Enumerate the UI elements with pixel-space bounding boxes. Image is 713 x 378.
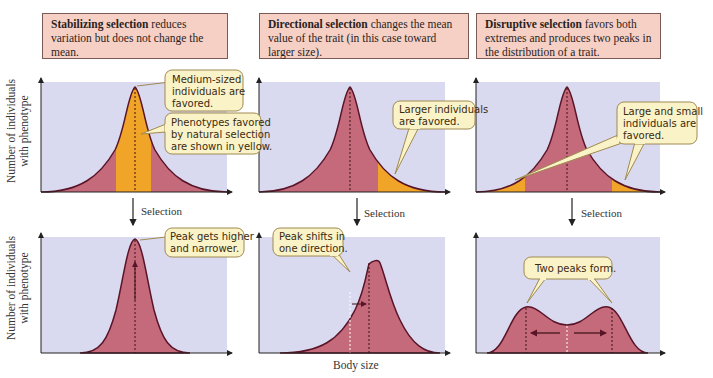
selection-diagram: Medium-sized individuals are favored. Ph… — [0, 0, 713, 378]
plot-disruptive-after — [476, 233, 665, 353]
svg-text:favored.: favored. — [172, 98, 213, 109]
svg-text:are favored.: are favored. — [399, 116, 460, 127]
svg-text:Peak gets higher: Peak gets higher — [170, 231, 255, 242]
svg-text:Medium-sized: Medium-sized — [172, 74, 241, 85]
svg-text:Two peaks form.: Two peaks form. — [534, 263, 616, 274]
svg-text:and narrower.: and narrower. — [170, 243, 239, 254]
svg-text:by natural selection: by natural selection — [171, 129, 270, 140]
plot-directional-before — [259, 78, 450, 192]
svg-text:are shown in yellow.: are shown in yellow. — [171, 141, 272, 152]
svg-text:Peak shifts in: Peak shifts in — [279, 231, 345, 242]
svg-text:one direction.: one direction. — [279, 243, 348, 254]
svg-text:individuals are: individuals are — [172, 86, 245, 97]
svg-text:individuals are: individuals are — [623, 118, 696, 129]
svg-text:Large and small: Large and small — [623, 106, 703, 117]
svg-text:Phenotypes favored: Phenotypes favored — [171, 117, 271, 128]
svg-text:favored.: favored. — [623, 130, 664, 141]
svg-text:Larger individuals: Larger individuals — [399, 104, 488, 115]
